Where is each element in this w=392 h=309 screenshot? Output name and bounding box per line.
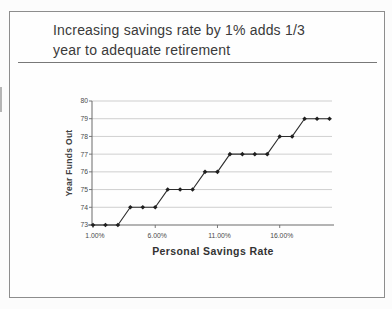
data-point <box>91 223 96 228</box>
data-point <box>103 223 108 228</box>
x-tick-label: 6.00% <box>148 232 167 239</box>
data-point <box>240 152 245 157</box>
y-tick-label: 73 <box>80 221 88 228</box>
title-divider <box>18 62 377 63</box>
data-point <box>178 187 183 192</box>
y-tick-label: 74 <box>80 204 88 211</box>
x-tick-label: 1.00% <box>85 232 104 239</box>
y-tick-label: 76 <box>80 168 88 175</box>
line-chart-canvas: 73747576777879801.00%6.00%11.00%16.00% <box>60 88 352 263</box>
y-tick-label: 77 <box>80 151 88 158</box>
scan-edge-artifact <box>0 87 2 112</box>
data-point <box>140 205 145 210</box>
slide: Increasing savings rate by 1% adds 1/3 y… <box>9 11 385 298</box>
screenshot-page: Increasing savings rate by 1% adds 1/3 y… <box>0 0 392 309</box>
data-point <box>253 152 258 157</box>
slide-title-line1: Increasing savings rate by 1% adds 1/3 <box>53 22 305 38</box>
y-tick-label: 78 <box>80 133 88 140</box>
data-point <box>315 116 320 121</box>
y-tick-label: 75 <box>80 186 88 193</box>
slide-title-line2: year to adequate retirement <box>53 42 230 58</box>
x-tick-label: 11.00% <box>208 232 231 239</box>
x-tick-label: 16.00% <box>270 232 293 239</box>
data-point <box>327 116 332 121</box>
x-axis-title: Personal Savings Rate <box>128 245 298 257</box>
y-tick-label: 79 <box>80 115 88 122</box>
y-tick-label: 80 <box>80 97 88 104</box>
slide-title: Increasing savings rate by 1% adds 1/3 y… <box>53 21 363 60</box>
